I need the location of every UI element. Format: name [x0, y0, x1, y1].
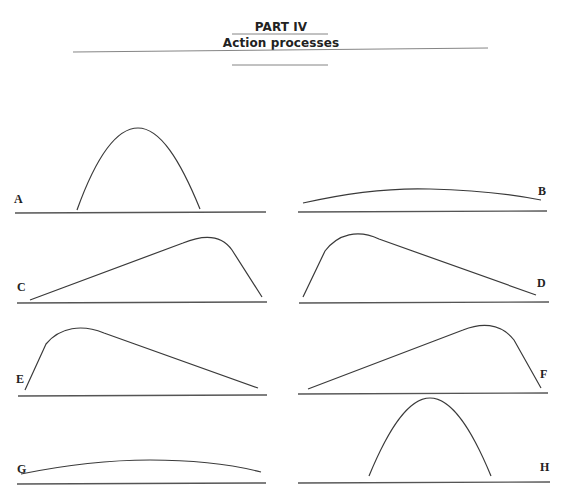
panel-b: B — [298, 184, 547, 212]
title-rule — [73, 48, 488, 52]
panel-label-d: D — [537, 276, 546, 290]
panel-label-g: G — [17, 462, 26, 476]
panel-a: A — [14, 128, 266, 213]
panel-h: H — [298, 398, 550, 483]
panel-label-a: A — [14, 192, 23, 206]
distribution-shapes-figure: A B C D E F G H — [0, 0, 562, 494]
panel-label-e: E — [16, 372, 24, 386]
panel-c: C — [17, 237, 267, 303]
panel-label-f: F — [540, 367, 547, 381]
panel-label-b: B — [538, 184, 546, 198]
panel-f: F — [298, 325, 548, 394]
panel-e: E — [16, 328, 267, 396]
panel-g: G — [17, 460, 266, 484]
panel-d: D — [299, 234, 549, 303]
panel-label-c: C — [17, 280, 26, 294]
panel-label-h: H — [540, 460, 550, 474]
